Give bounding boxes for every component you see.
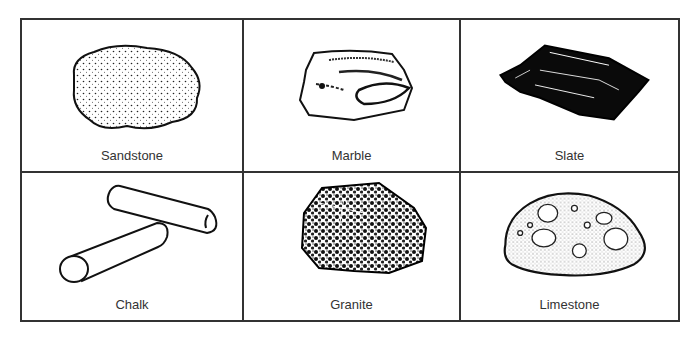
rock-types-grid: Sandstone Marble Slate [20, 18, 680, 322]
granite-icon [244, 173, 459, 293]
limestone-icon [461, 173, 678, 293]
rock-label: Granite [244, 297, 459, 312]
rock-cell-limestone: Limestone [461, 173, 678, 320]
rock-label: Marble [244, 148, 459, 163]
rock-cell-granite: Granite [244, 173, 461, 320]
sandstone-icon [22, 20, 242, 140]
rock-label: Chalk [22, 297, 242, 312]
rock-cell-slate: Slate [461, 20, 678, 173]
rock-label: Sandstone [22, 148, 242, 163]
rock-cell-marble: Marble [244, 20, 461, 173]
marble-icon [244, 20, 459, 140]
rock-cell-chalk: Chalk [22, 173, 244, 320]
chalk-icon [22, 173, 242, 293]
rock-label: Slate [461, 148, 678, 163]
slate-icon [461, 20, 678, 140]
rock-label: Limestone [461, 297, 678, 312]
rock-cell-sandstone: Sandstone [22, 20, 244, 173]
